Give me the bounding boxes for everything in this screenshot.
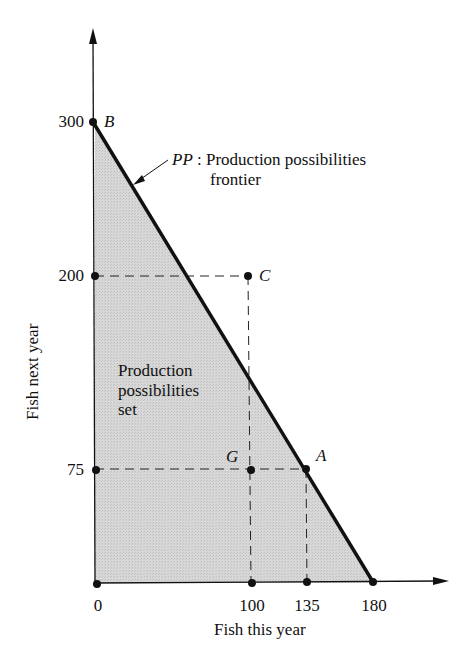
point-x100 [248,579,256,587]
pp-annotation-text: : Production possibilities [193,150,366,169]
y-axis-arrow-icon [89,28,97,44]
set-label-line3: set [118,401,137,418]
arrowhead-icon [133,175,145,185]
x-axis-arrow-icon [433,577,449,585]
y-tick-300: 300 [24,113,84,130]
point-origin [93,580,101,588]
point-A [302,465,310,473]
pp-annotation-line2: frontier [210,171,261,188]
point-B [89,118,97,126]
point-label-G: G [226,448,238,465]
x-tick-135: 135 [287,597,327,614]
point-C [244,272,252,280]
x-tick-0: 0 [78,597,118,614]
x-tick-180: 180 [354,597,394,614]
point-label-B: B [104,113,114,130]
y-axis-title: Fish next year [24,324,41,420]
pp-annotation-arrow [133,160,168,185]
y-tick-75: 75 [24,461,84,478]
x-axis-title: Fish this year [214,621,306,638]
set-label-line1: Production [118,362,193,379]
point-label-A: A [316,447,326,464]
point-x180 [369,578,377,586]
y-tick-200: 200 [24,267,84,284]
point-G [247,466,255,474]
point-y75 [92,466,100,474]
chart-canvas [0,0,474,667]
pp-annotation: PP : Production possibilities [172,151,366,168]
x-tick-100: 100 [232,597,272,614]
point-y200 [91,272,99,280]
point-x135 [303,578,311,586]
set-label-line2: possibilities [118,382,199,399]
pp-symbol: PP [172,150,193,169]
point-label-C: C [259,267,270,284]
